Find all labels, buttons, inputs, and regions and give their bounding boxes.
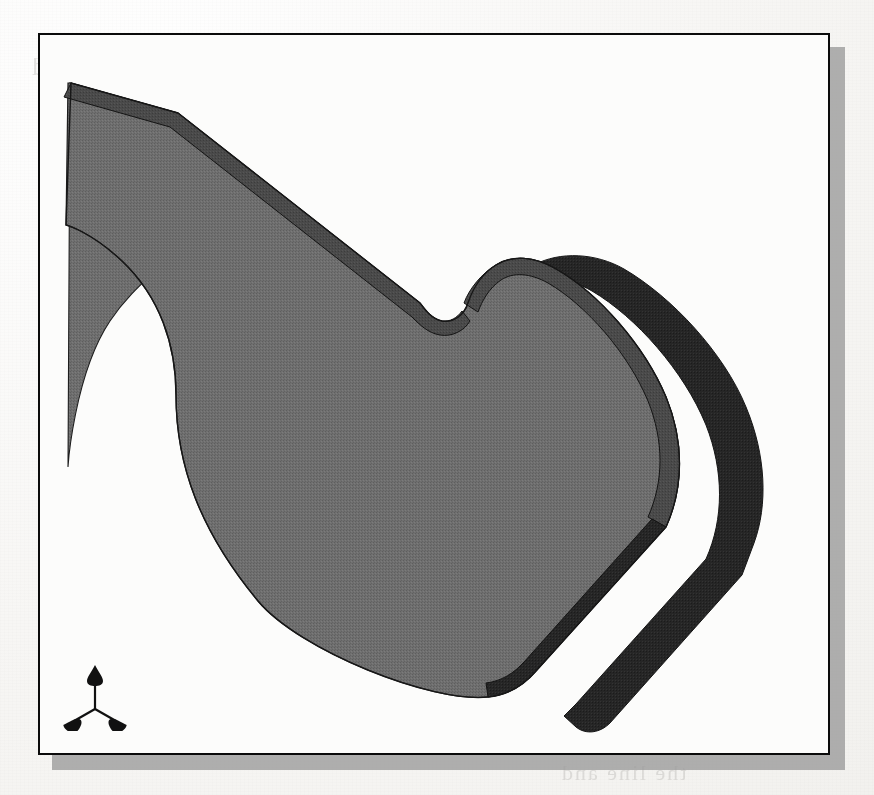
cad-viewport-canvas[interactable] — [40, 35, 828, 753]
cad-viewport-frame[interactable] — [38, 33, 830, 755]
coordinate-triad-icon — [62, 659, 128, 731]
triad-arrowhead-down-right — [106, 718, 127, 731]
triad-arrowhead-up — [87, 665, 103, 686]
triad-arrowhead-down-left — [63, 718, 84, 731]
solid-model-render — [40, 35, 828, 753]
